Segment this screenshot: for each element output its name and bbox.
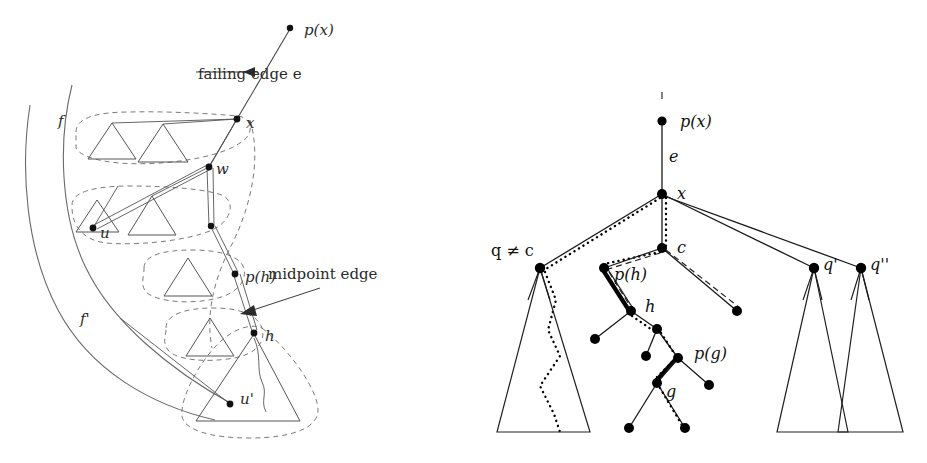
subtree-triangle-qdprime — [838, 268, 903, 432]
node-pg-right-child — [704, 380, 714, 390]
face-arc-outer — [26, 105, 215, 420]
label-midpoint-edge: midpoint edge — [268, 265, 378, 283]
node-ph — [232, 271, 239, 278]
subtree-triangle-2 — [138, 124, 188, 162]
figure-canvas: p(x) failing edge e x w u p(h) midpoint … — [0, 0, 927, 463]
label-pg: p(g) — [694, 344, 727, 363]
edge-w-down-left — [207, 168, 209, 226]
label-px: p(x) — [304, 21, 334, 39]
node-w — [206, 164, 213, 171]
edge-uprime-up — [120, 318, 230, 404]
node-h-left-child — [590, 334, 600, 344]
edge-wchild-ph-a — [211, 227, 233, 272]
node-q — [535, 263, 545, 273]
node-px-right — [657, 116, 666, 125]
node-px — [287, 25, 293, 31]
label-u: u — [100, 224, 110, 242]
node-h-right-child — [652, 324, 662, 334]
left-panel: p(x) failing edge e x w u p(h) midpoint … — [26, 21, 378, 438]
edge-w-u-inner — [97, 170, 209, 229]
node-c-right-child — [732, 306, 742, 316]
label-q-neq-c: q ≠ c — [491, 241, 534, 260]
label-uprime: u' — [240, 390, 254, 408]
dotted-path-x-to-q — [541, 198, 660, 272]
squiggle-in-uprime — [254, 338, 266, 412]
label-g: g — [666, 382, 676, 401]
label-e: e — [669, 147, 678, 166]
subtree-triangle-u — [76, 200, 119, 232]
node-qdprime — [856, 263, 866, 273]
edge-g-left-child — [629, 383, 657, 428]
face-blob-lower2 — [165, 308, 263, 360]
midpoint-edge-arrowhead — [240, 305, 257, 316]
node-w-child — [208, 223, 214, 229]
edge-x-q — [540, 194, 662, 268]
edge-c-right — [662, 248, 737, 311]
node-g-right-child — [680, 423, 690, 433]
edge-w-u-outer — [94, 164, 209, 225]
edge-w-down-right — [213, 168, 214, 226]
face-blob-lower — [143, 250, 245, 302]
node-pg — [673, 353, 683, 363]
node-g — [652, 378, 662, 388]
subtree-triangle-3 — [128, 196, 176, 235]
node-g-left-child — [624, 423, 634, 433]
right-panel: p(x) e x c q ≠ c p(h) h p(g) g q' q'' — [491, 92, 903, 433]
figure-root: p(x) failing edge e x w u p(h) midpoint … — [0, 0, 927, 463]
label-x-right: x — [677, 184, 686, 203]
node-u — [90, 225, 97, 232]
subtree-triangle-qprime — [777, 268, 848, 432]
node-x-right — [657, 189, 667, 199]
node-qprime — [809, 263, 819, 273]
label-w: w — [216, 160, 229, 178]
node-ph-right — [599, 263, 609, 273]
label-ph-right: p(h) — [614, 265, 647, 284]
node-pg-left-sibling — [641, 351, 651, 361]
node-h-right — [626, 306, 636, 316]
subtree-triangle-1 — [88, 123, 136, 159]
midpoint-edge-leader — [253, 288, 320, 310]
node-uprime — [227, 401, 234, 408]
label-px-right: p(x) — [680, 112, 712, 131]
node-c — [657, 243, 667, 253]
edge-h-left-child — [595, 311, 631, 339]
label-qprime: q' — [823, 255, 838, 274]
label-c: c — [677, 238, 686, 257]
edge-wchild-ph-b — [215, 226, 238, 272]
edge-u-up — [93, 186, 118, 228]
fan-edge-x-t1 — [112, 119, 237, 123]
label-h: h — [265, 327, 275, 345]
label-h-right: h — [645, 297, 655, 316]
dotted-path-q-to-subtree — [540, 272, 560, 432]
dashed-edge-c-right — [666, 250, 740, 308]
node-h — [251, 330, 258, 337]
node-x — [234, 116, 241, 123]
subtree-triangle-4 — [164, 258, 212, 296]
label-x: x — [246, 114, 255, 132]
label-fprime: f' — [79, 310, 90, 328]
label-failing-edge: failing edge e — [198, 65, 302, 83]
label-qdprime: q'' — [870, 255, 889, 274]
subtree-triangle-q — [497, 268, 590, 432]
edge-w-t3 — [152, 167, 209, 196]
